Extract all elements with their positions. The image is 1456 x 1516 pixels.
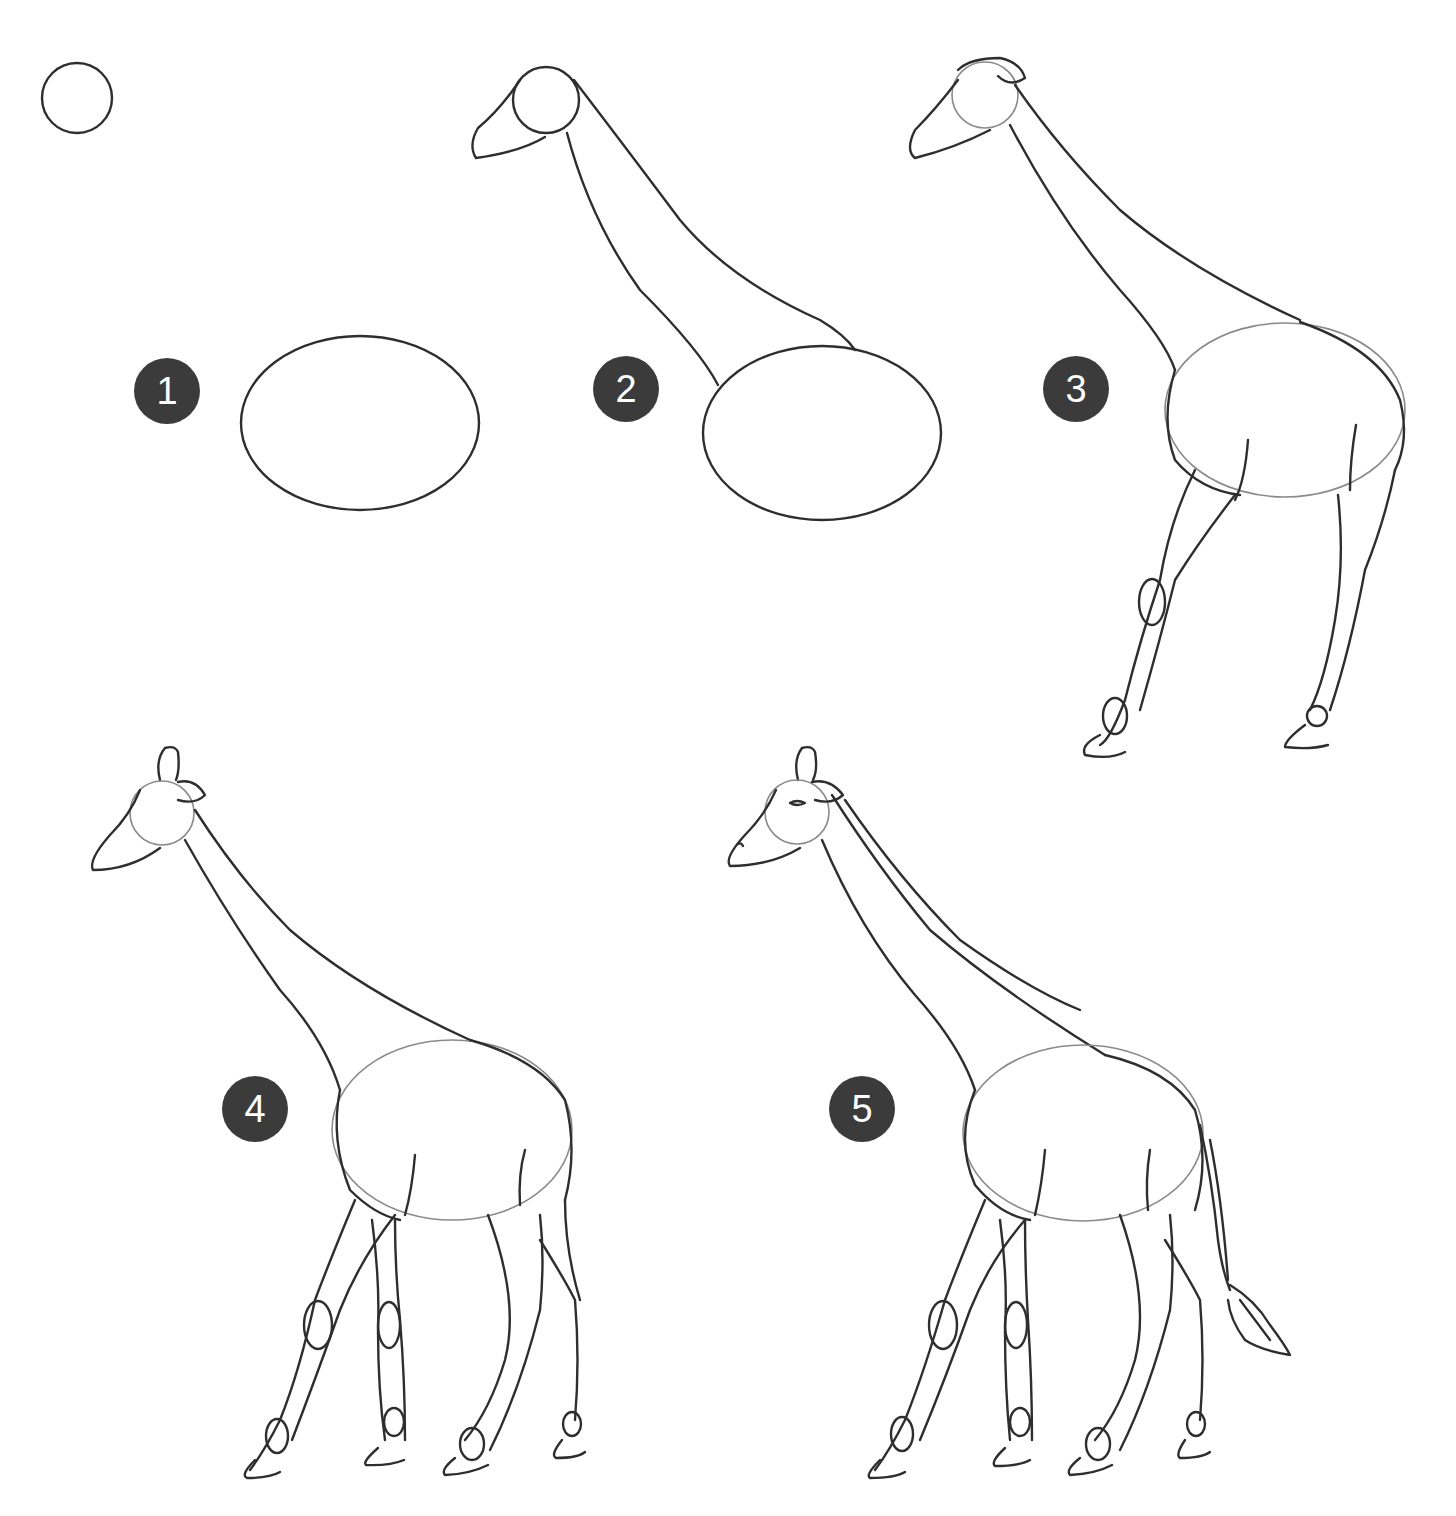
step-3-drawing [910, 58, 1405, 757]
step-1-drawing [42, 63, 479, 510]
step-2-drawing [472, 67, 941, 520]
drawing-tutorial: 1 2 3 4 5 [0, 0, 1456, 1516]
step-4-drawing [92, 747, 585, 1478]
step-5-drawing [729, 747, 1290, 1478]
giraffe-sketches [0, 0, 1456, 1516]
